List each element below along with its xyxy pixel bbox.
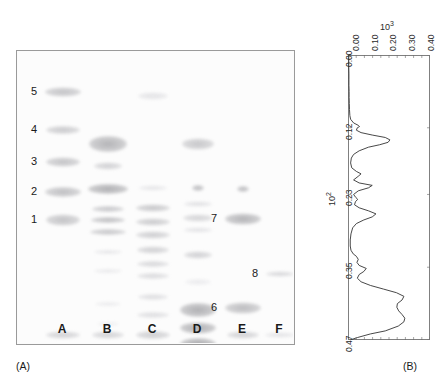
panel-a-caption: (A)	[16, 360, 30, 372]
gel-band	[137, 247, 169, 254]
gel-band	[89, 136, 127, 152]
gel-band	[94, 163, 122, 170]
gel-frame	[16, 50, 295, 345]
gel-band	[266, 272, 293, 277]
lane-label-b: B	[103, 322, 112, 336]
gel-band	[88, 184, 128, 194]
gel-band	[137, 273, 169, 279]
x-tick-label: 0.10	[370, 34, 380, 51]
x-tick-label: 0.30	[407, 34, 417, 51]
gel-band	[180, 338, 216, 343]
gel-band	[45, 88, 81, 97]
gel-band	[184, 252, 212, 259]
gel-band	[90, 229, 126, 235]
gel-band	[46, 215, 80, 226]
gel-band	[237, 186, 249, 192]
gel-band	[94, 250, 122, 254]
trace-curve	[348, 55, 430, 340]
band-marker-3: 3	[31, 155, 37, 167]
y-tick-label: 0.35	[344, 263, 354, 280]
gel-band	[137, 261, 169, 267]
panel-b-caption: (B)	[403, 360, 417, 372]
gel-band	[136, 232, 170, 239]
gel-plate	[18, 52, 293, 343]
gel-band	[139, 186, 167, 191]
gel-band	[91, 217, 125, 223]
gel-band	[225, 303, 261, 314]
band-marker-5: 5	[31, 85, 37, 97]
lane-label-c: C	[148, 322, 157, 336]
gel-band	[45, 187, 81, 197]
gel-band	[46, 158, 80, 167]
gel-band	[184, 202, 212, 207]
gel-band	[225, 214, 261, 225]
lane-label-e: E	[238, 322, 246, 336]
x-axis-exponent-label: 103	[380, 20, 394, 32]
x-tick-label: 0.20	[388, 34, 398, 51]
y-tick-label: 0.00	[344, 50, 354, 67]
figure-root: ABCDEF54321786 (A) 103 102 0.000.100.200…	[0, 0, 448, 383]
lane-label-f: F	[275, 322, 282, 336]
band-marker-2: 2	[31, 185, 37, 197]
gel-band	[95, 302, 121, 306]
gel-band	[183, 215, 213, 222]
y-axis-exponent-label: 102	[325, 192, 337, 206]
y-tick-label: 0.23	[344, 190, 354, 207]
gel-band	[192, 185, 204, 191]
gel-band	[182, 139, 214, 150]
gel-band	[137, 312, 169, 318]
gel-band	[136, 205, 170, 212]
lane-label-a: A	[58, 322, 67, 336]
gel-band	[94, 269, 122, 273]
band-marker-8: 8	[252, 267, 258, 279]
gel-band	[92, 206, 124, 212]
band-marker-1: 1	[31, 213, 37, 225]
band-marker-6: 6	[211, 301, 217, 313]
x-tick-label: 0.40	[426, 34, 436, 51]
x-tick-label: 0.00	[351, 34, 361, 51]
gel-band	[138, 93, 168, 100]
gel-band	[136, 219, 170, 226]
gel-band	[46, 126, 80, 134]
gel-band	[184, 228, 212, 233]
y-tick-label: 0.12	[344, 123, 354, 140]
gel-band	[138, 294, 168, 300]
y-tick-label: 0.47	[344, 335, 354, 352]
lane-label-d: D	[193, 322, 202, 336]
band-marker-4: 4	[31, 123, 37, 135]
panel-b-trace: 103 102 0.000.100.200.300.400.000.120.23…	[330, 18, 442, 348]
band-marker-7: 7	[211, 212, 217, 224]
gel-band	[185, 279, 211, 285]
panel-a-gel: ABCDEF54321786	[16, 50, 295, 345]
